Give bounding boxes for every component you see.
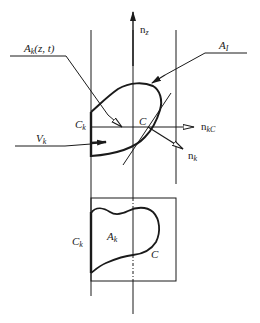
a-i-sub: I [226, 44, 229, 53]
interface-contour [91, 83, 161, 156]
c-k-upper-sub: k [82, 123, 86, 132]
n-k-sub: k [194, 154, 198, 163]
c-k-upper-label: Ck [75, 119, 86, 132]
n-z-sub: z [146, 28, 149, 37]
v-k-arrow [91, 142, 106, 143]
v-k-sub: k [43, 137, 47, 146]
a-k-zt-label: Ak(z, t) [24, 43, 54, 56]
n-k-arrow [148, 127, 183, 149]
c-upper-label: C [139, 116, 146, 127]
c-lower-text: C [151, 248, 158, 260]
n-k-label: nk [188, 150, 197, 163]
phase-contour [91, 208, 159, 273]
a-k-zt-suffix: (z, t) [34, 42, 54, 54]
a-k-zt-base: A [24, 42, 31, 54]
a-k-zt-arrow [108, 115, 122, 127]
a-i-label: AI [219, 40, 228, 53]
n-z-label: nz [140, 24, 149, 37]
c-lower-label: C [151, 249, 158, 260]
lower-view [91, 198, 176, 314]
a-k-lower-base: A [107, 230, 114, 242]
c-k-lower-label: Ck [72, 236, 83, 249]
v-k-base: V [36, 132, 43, 144]
c-upper-text: C [139, 115, 146, 127]
n-kc-label: nkC [201, 121, 215, 134]
a-k-zt-leader [10, 56, 108, 115]
a-i-leader [165, 53, 247, 75]
tangent-line [123, 93, 171, 165]
a-k-lower-sub: k [114, 235, 118, 244]
a-i-base: A [219, 39, 226, 51]
a-k-lower-label: Ak [107, 231, 117, 244]
n-kc-sub: kC [207, 125, 216, 134]
v-k-leader [15, 144, 91, 146]
v-k-label: Vk [36, 133, 46, 146]
diagram: nz Ak(z, t) AI Ck C nkC Vk nk Ck Ak C [0, 0, 260, 323]
c-k-lower-sub: k [79, 240, 83, 249]
a-i-arrow [152, 75, 165, 83]
